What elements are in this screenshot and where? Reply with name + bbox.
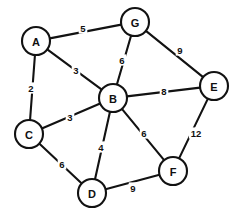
graph-diagram: 5236983466912 ABCDEFG: [0, 0, 237, 221]
node-label-f: F: [170, 166, 177, 178]
edge-weight-label: 8: [161, 86, 166, 97]
edge-weight-label: 3: [73, 65, 78, 76]
graph-node-d[interactable]: D: [78, 179, 106, 207]
edge-weight-label: 9: [177, 45, 182, 56]
graph-node-a[interactable]: A: [22, 27, 50, 55]
edge-weight-label: 6: [59, 159, 64, 170]
graph-node-f[interactable]: F: [159, 157, 187, 185]
edge-weight-label: 12: [191, 128, 202, 139]
edge-weight-label: 6: [141, 128, 146, 139]
graph-edge-g-e: [146, 31, 203, 77]
node-label-e: E: [210, 81, 217, 93]
node-label-c: C: [25, 129, 33, 141]
edge-weight-label: 5: [80, 23, 86, 34]
graph-node-b[interactable]: B: [99, 84, 127, 112]
edge-weight-label: 2: [28, 83, 33, 94]
nodes-layer: ABCDEFG: [15, 8, 228, 207]
graph-node-e[interactable]: E: [200, 72, 228, 100]
edge-weight-label: 3: [67, 112, 72, 123]
edge-weight-label: 6: [119, 55, 124, 66]
edge-weight-label: 9: [130, 183, 135, 194]
node-label-a: A: [32, 36, 40, 48]
node-label-b: B: [109, 93, 117, 105]
edge-weight-label: 4: [98, 142, 104, 153]
graph-node-g[interactable]: G: [121, 8, 149, 36]
graph-node-c[interactable]: C: [15, 120, 43, 148]
node-label-g: G: [131, 17, 140, 29]
node-label-d: D: [88, 188, 96, 200]
graph-svg: 5236983466912 ABCDEFG: [0, 0, 237, 221]
